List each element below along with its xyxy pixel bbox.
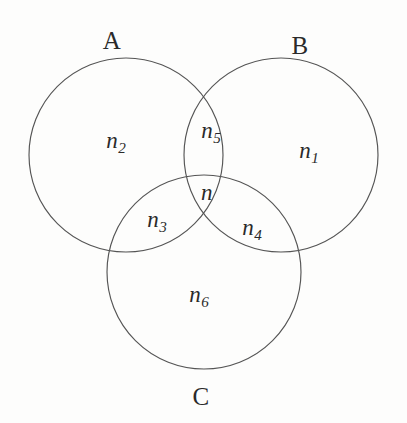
region-label-n1-base: n bbox=[299, 138, 311, 163]
region-label-n-base: n bbox=[201, 180, 213, 205]
set-label-c: C bbox=[193, 384, 210, 409]
region-label-n4-base: n bbox=[242, 215, 254, 240]
region-label-n5-base: n bbox=[201, 118, 213, 143]
region-label-n5: n5 bbox=[201, 119, 221, 145]
region-label-n2-subscript: 2 bbox=[118, 139, 126, 156]
region-label-n4-subscript: 4 bbox=[254, 226, 262, 243]
venn-circles-svg bbox=[0, 0, 407, 423]
region-label-n: n bbox=[201, 181, 213, 207]
region-label-n3-base: n bbox=[147, 207, 159, 232]
circle-set-b bbox=[184, 58, 378, 252]
region-label-n2: n2 bbox=[106, 129, 126, 155]
region-label-n2-base: n bbox=[106, 128, 118, 153]
region-label-n3-subscript: 3 bbox=[159, 218, 167, 235]
set-label-a: A bbox=[103, 28, 121, 53]
region-label-n6: n6 bbox=[189, 283, 209, 309]
venn-diagram-figure: A B C n2 n5 n1 n n3 n4 n6 bbox=[0, 0, 407, 423]
region-label-n1: n1 bbox=[299, 139, 319, 165]
region-label-n6-base: n bbox=[189, 282, 201, 307]
region-label-n3: n3 bbox=[147, 208, 167, 234]
set-label-b: B bbox=[292, 33, 309, 58]
region-label-n1-subscript: 1 bbox=[311, 149, 319, 166]
region-label-n6-subscript: 6 bbox=[201, 293, 209, 310]
region-label-n4: n4 bbox=[242, 216, 262, 242]
region-label-n5-subscript: 5 bbox=[213, 129, 221, 146]
